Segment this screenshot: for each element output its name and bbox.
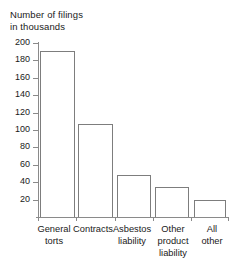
bar-chart: Number of filings in thousands 200 180 1… [0,0,236,269]
x-axis-line [36,217,228,218]
y-tick-label-80: 80 [20,141,30,152]
plot-area: 200 180 160 140 120 100 80 60 40 20 [38,43,228,217]
y-axis-line [38,42,39,217]
y-tick-100: 100 [33,130,38,131]
x-label-all-other-line-1: All [190,223,234,235]
y-tick-60: 60 [33,165,38,166]
y-tick-label-120: 120 [15,107,30,118]
y-tick-80: 80 [33,147,38,148]
x-label-all-other: All other [190,223,234,247]
bar-other-product-liability[interactable] [155,187,189,218]
y-axis-title-line-1: Number of filings [10,9,83,20]
y-tick-label-20: 20 [20,194,30,205]
y-tick-label-40: 40 [20,176,30,187]
y-tick-label-60: 60 [20,159,30,170]
y-tick-label-140: 140 [15,89,30,100]
bar-asbestos-liability[interactable] [117,175,151,217]
y-tick-label-100: 100 [15,124,30,135]
x-tick-2 [115,217,116,221]
y-tick-160: 160 [33,78,38,79]
x-label-general-torts-line-2: torts [30,235,78,247]
y-tick-200: 200 [33,43,38,44]
x-axis-labels: General torts Contracts Asbestos liabili… [30,223,236,269]
x-tick-4 [191,217,192,221]
x-tick-5 [228,217,229,221]
y-axis-title-line-2: in thousands [10,21,83,33]
bar-contracts[interactable] [78,124,113,217]
x-tick-0 [38,217,39,221]
x-tick-1 [76,217,77,221]
y-tick-20: 20 [33,200,38,201]
y-tick-120: 120 [33,113,38,114]
y-tick-180: 180 [33,60,38,61]
bar-general-torts[interactable] [40,51,75,217]
y-axis-title: Number of filings in thousands [10,9,83,33]
y-tick-140: 140 [33,95,38,96]
bar-all-other[interactable] [194,200,226,217]
x-label-other-product-liability-line-3: liability [149,247,197,259]
y-tick-label-180: 180 [15,54,30,65]
y-tick-label-160: 160 [15,72,30,83]
x-tick-3 [153,217,154,221]
x-label-all-other-line-2: other [190,235,234,247]
y-tick-label-200: 200 [15,37,30,48]
y-tick-40: 40 [33,182,38,183]
